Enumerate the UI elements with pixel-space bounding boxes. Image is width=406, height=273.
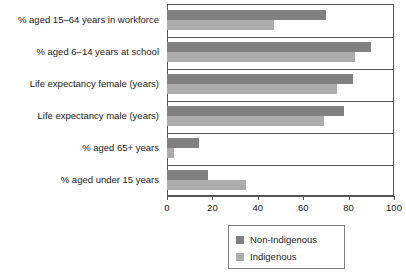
x-tick-label: 80 [343, 202, 354, 213]
category-axis-labels: % aged 15–64 years in workforce % aged 6… [0, 4, 163, 196]
category-label: % aged under 15 years [61, 164, 159, 196]
category-label: % aged 65+ years [82, 132, 159, 164]
legend-item-non-indigenous: Non-Indigenous [236, 232, 317, 248]
row-separator [168, 101, 393, 102]
x-tick-label: 60 [298, 202, 309, 213]
x-tick-label: 20 [207, 202, 218, 213]
plot-area [167, 4, 394, 196]
legend-item-indigenous: Indigenous [236, 249, 296, 265]
x-tick [167, 196, 168, 200]
category-label: Life expectancy male (years) [38, 100, 159, 132]
chart-legend: Non-Indigenous Indigenous [228, 225, 345, 269]
bar-chart: % aged 15–64 years in workforce % aged 6… [0, 0, 406, 273]
category-label: % aged 6–14 years at school [36, 36, 159, 68]
x-tick [349, 196, 350, 200]
legend-label: Non-Indigenous [250, 235, 317, 245]
category-label: % aged 15–64 years in workforce [18, 4, 159, 36]
row-separator [168, 133, 393, 134]
x-tick [303, 196, 304, 200]
legend-swatch-icon [236, 253, 244, 261]
x-tick-label: 40 [253, 202, 264, 213]
row-separator [168, 69, 393, 70]
x-tick-label: 0 [164, 202, 169, 213]
x-axis-line [167, 196, 394, 197]
category-label: Life expectancy female (years) [30, 68, 159, 100]
x-tick [258, 196, 259, 200]
x-tick [212, 196, 213, 200]
legend-swatch-icon [236, 236, 244, 244]
row-separator [168, 165, 393, 166]
x-tick-label: 100 [386, 202, 402, 213]
legend-label: Indigenous [250, 252, 296, 262]
x-tick [394, 196, 395, 200]
row-separator [168, 37, 393, 38]
